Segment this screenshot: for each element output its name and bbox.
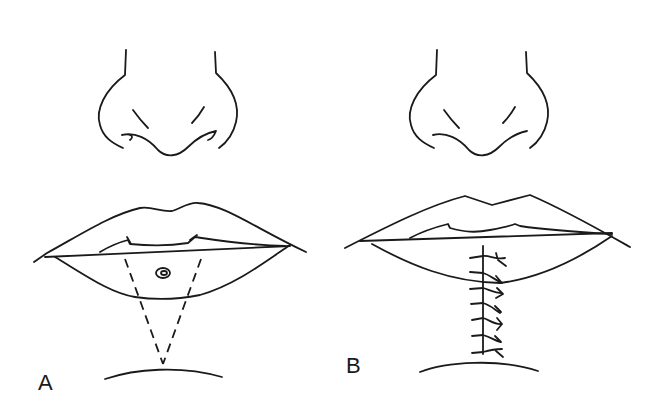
panel-label-b: B <box>346 355 361 377</box>
chin-a <box>105 370 222 379</box>
figure: A B <box>0 0 664 406</box>
chin-b <box>420 363 538 372</box>
panel-b <box>345 50 630 372</box>
lips-b <box>345 195 630 372</box>
nose-a <box>99 50 237 155</box>
nose-b <box>410 50 548 155</box>
drawing <box>0 0 664 406</box>
panel-a <box>34 50 306 379</box>
lips-a <box>34 203 306 379</box>
sutures <box>470 253 506 357</box>
panel-label-a: A <box>38 372 53 394</box>
